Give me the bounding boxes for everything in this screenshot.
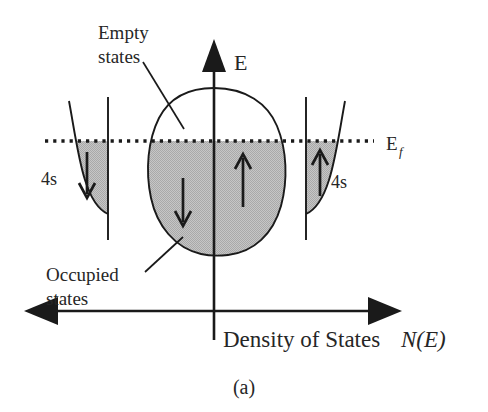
figure-caption: (a) [233,376,255,399]
occupied-states-label-line2: states [46,288,88,309]
dos-axis-label-plain: Density of States [223,327,380,352]
right-4s-band-label: 4s [331,172,347,192]
fermi-level-label-subscript: f [399,144,405,159]
empty-states-label-line2: states [98,46,140,67]
energy-axis-arrowhead [202,39,226,72]
occupied-states-leader-line [145,237,183,272]
central-3d-occupied-fill [148,88,286,256]
dos-axis-label-italic: N(E) [400,327,446,352]
density-of-states-figure: Empty states Occupied states E E f 4s 4s… [0,0,488,412]
occupied-states-label-line1: Occupied [46,264,119,285]
dos-diagram-svg: Empty states Occupied states E E f 4s 4s… [0,0,488,412]
fermi-level-label-main: E [386,133,398,154]
dos-axis-right-arrowhead [368,297,402,325]
energy-axis-label: E [234,50,247,75]
dos-axis-label: Density of States N(E) [223,327,446,352]
left-4s-band-label: 4s [41,169,57,189]
fermi-level-label: E f [386,133,405,159]
empty-states-leader-line [143,62,184,129]
occupied-states-fill-group [69,88,345,256]
empty-states-label-line1: Empty [98,22,149,43]
right-4s-occupied-fill [306,101,345,213]
